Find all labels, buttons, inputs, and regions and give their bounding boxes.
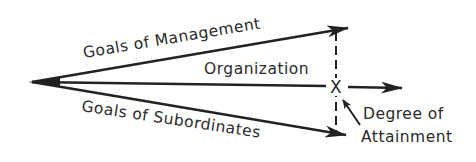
label-attainment: Attainment [361, 128, 453, 146]
label-organization: Organization [204, 60, 309, 78]
organization-line [32, 82, 326, 86]
label-degree-of: Degree of [363, 105, 444, 123]
label-goals-of-subordinates: Goals of Subordinates [80, 97, 262, 142]
organization-arrow [348, 87, 402, 88]
attainment-x-marker: X [330, 77, 342, 97]
degree-pointer-arrow [343, 100, 360, 125]
goals-diagram: X Goals of Management Organization Goals… [0, 0, 476, 162]
label-goals-of-management: Goals of Management [82, 15, 262, 62]
